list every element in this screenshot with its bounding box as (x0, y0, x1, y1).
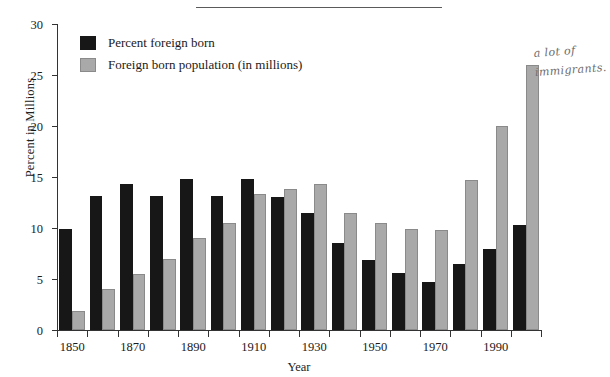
bar (271, 197, 284, 330)
bar (332, 243, 345, 330)
x-axis-tick-label: 1870 (120, 340, 145, 355)
y-axis-tick-label: 5 (37, 273, 43, 288)
bar (133, 274, 146, 330)
bar (102, 289, 115, 330)
x-axis-tick (57, 330, 58, 337)
bar (465, 180, 478, 330)
legend-label: Foreign born population (in millions) (108, 57, 302, 73)
y-axis-tick-label: 0 (37, 324, 43, 339)
chart-legend: Percent foreign born Foreign born popula… (80, 33, 302, 77)
legend-label: Percent foreign born (108, 35, 215, 51)
bar (513, 225, 526, 330)
top-divider-rule (196, 7, 442, 8)
bar (344, 213, 357, 330)
x-axis-tick (481, 330, 482, 337)
bar (483, 249, 496, 330)
bar (72, 311, 85, 330)
bar (392, 273, 405, 330)
x-axis-tick (178, 330, 179, 337)
x-axis-tick (239, 330, 240, 337)
x-axis-tick (450, 330, 451, 337)
x-axis-title: Year (287, 360, 310, 375)
bar (422, 282, 435, 330)
bar (405, 229, 418, 330)
x-axis-tick (118, 330, 119, 337)
x-axis-tick (87, 330, 88, 337)
bar (193, 238, 206, 330)
y-axis-tick-label: 25 (31, 69, 44, 84)
bar (301, 213, 314, 330)
bar (375, 223, 388, 330)
x-axis-tick (148, 330, 149, 337)
bar (496, 126, 509, 330)
y-axis-tick-label: 10 (31, 222, 44, 237)
legend-item-foreign-born-population: Foreign born population (in millions) (80, 55, 302, 74)
annotation-line-2: immigrants. (534, 58, 610, 82)
x-axis-tick (329, 330, 330, 337)
x-axis-tick-label: 1850 (60, 340, 85, 355)
y-axis-tick-label: 15 (31, 171, 44, 186)
y-axis-tick-label: 20 (31, 120, 44, 135)
x-axis-tick-label: 1910 (241, 340, 266, 355)
x-axis-tick-label: 1950 (362, 340, 387, 355)
x-axis-tick (541, 330, 542, 337)
chart-page: Percent in Millions 051015202530 1850187… (0, 0, 610, 377)
bar (59, 229, 72, 330)
y-axis-tick-label: 30 (31, 18, 44, 33)
x-axis-tick (208, 330, 209, 337)
x-axis-tick (269, 330, 270, 337)
bar (150, 196, 163, 330)
handwritten-annotation: a lot of immigrants. (533, 39, 610, 82)
x-axis-tick-label: 1890 (181, 340, 206, 355)
x-axis-tick-label: 1930 (302, 340, 327, 355)
bar (120, 184, 133, 330)
x-axis-tick-label: 1990 (483, 340, 508, 355)
bar (435, 230, 448, 330)
x-axis-tick (360, 330, 361, 337)
bar (254, 194, 267, 330)
bar (223, 223, 236, 330)
x-axis-tick (390, 330, 391, 337)
bar (211, 196, 224, 330)
x-axis-tick (299, 330, 300, 337)
bar (453, 264, 466, 330)
bar (180, 179, 193, 330)
x-axis-tick (420, 330, 421, 337)
bar (284, 189, 297, 330)
bar (314, 184, 327, 330)
x-axis-tick-label: 1970 (423, 340, 448, 355)
bar (241, 179, 254, 330)
bar (163, 259, 176, 330)
x-axis-tick (511, 330, 512, 337)
bar (362, 260, 375, 330)
dark-square-swatch-icon (80, 36, 96, 50)
light-square-swatch-icon (80, 58, 96, 72)
bar (90, 196, 103, 330)
legend-item-percent-foreign-born: Percent foreign born (80, 33, 302, 52)
bar (526, 65, 539, 330)
